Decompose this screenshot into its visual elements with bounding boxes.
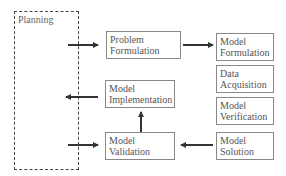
arrows-layer: [0, 0, 286, 176]
